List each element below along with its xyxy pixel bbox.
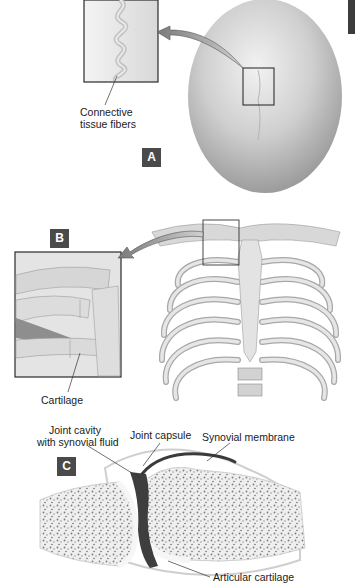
panel-c [40, 443, 305, 577]
label-articular-cartilage: Articular cartilage [213, 571, 294, 583]
skull-illustration [188, 0, 342, 193]
label-synovial-membrane: Synovial membrane [202, 431, 295, 443]
label-tissue-fibers: tissue fibers [80, 118, 136, 130]
label-connective: Connective [80, 106, 133, 118]
label-synovial-fluid: with synovial fluid [37, 436, 119, 448]
label-joint-cavity: Joint cavity [49, 424, 101, 436]
bone-right [141, 467, 305, 561]
panel-tag-a: A [142, 148, 161, 167]
rib-cage-illustration [152, 224, 340, 398]
panel-tag-b: B [50, 229, 69, 248]
panel-tag-c: C [57, 457, 76, 476]
label-cartilage: Cartilage [41, 394, 83, 406]
label-joint-capsule: Joint capsule [130, 429, 191, 441]
panel-a [84, 0, 342, 193]
bone-left [40, 482, 136, 566]
anatomy-figure [0, 0, 355, 586]
